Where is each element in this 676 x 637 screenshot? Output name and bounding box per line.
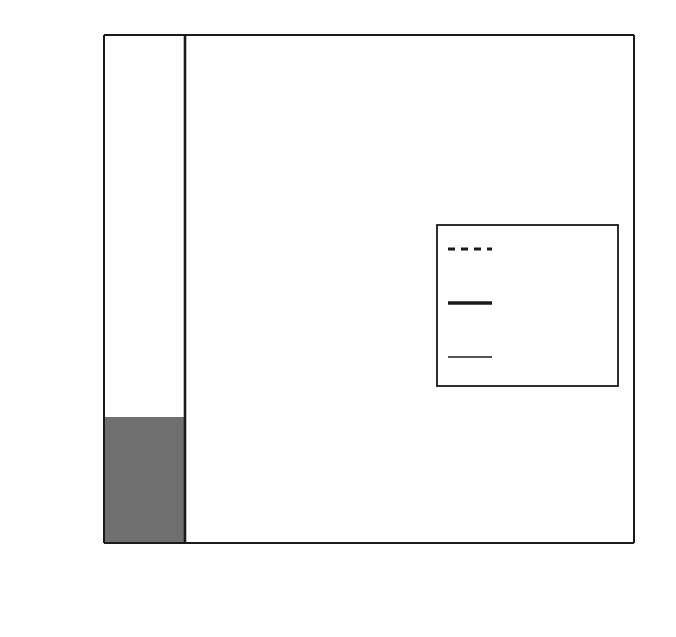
noise-shaping-function-chart — [0, 0, 676, 637]
legend — [437, 225, 618, 386]
shaded-baseband-region — [104, 417, 185, 543]
